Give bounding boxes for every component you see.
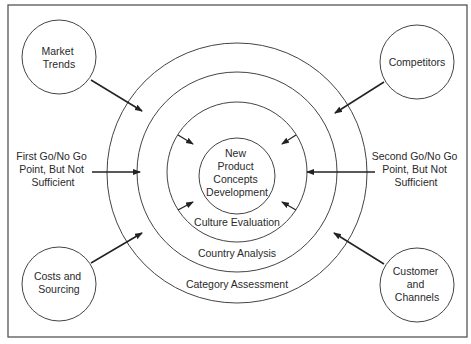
factor-label-costs-sourcing: Costs and Sourcing	[34, 270, 84, 295]
arrow-inner-top-left	[178, 135, 193, 144]
decision-label-first: First Go/No Go Point, But Not Sufficient	[16, 150, 90, 188]
arrow-customer-channels	[334, 233, 384, 264]
diagram-canvas: New Product Concepts Development Culture…	[0, 0, 471, 344]
arrow-costs-sourcing	[91, 233, 142, 263]
arrow-inner-top-right	[282, 135, 296, 144]
arrow-market-trends	[91, 80, 142, 111]
factor-circle-market-trends	[22, 20, 96, 94]
factor-label-competitors: Competitors	[389, 56, 446, 68]
arrow-inner-bottom-right	[282, 202, 296, 210]
ring-label-country: Country Analysis	[198, 247, 276, 259]
factor-label-customer-channels: Customer and Channels	[393, 265, 441, 303]
ring-label-culture: Culture Evaluation	[194, 216, 280, 228]
factor-label-market-trends: Market Trends	[41, 45, 76, 70]
ring-label-category: Category Assessment	[186, 278, 288, 290]
decision-label-second: Second Go/No Go Point, But Not Sufficien…	[372, 150, 461, 188]
center-label: New Product Concepts Development	[206, 147, 268, 198]
arrow-inner-bottom-left	[178, 202, 193, 210]
